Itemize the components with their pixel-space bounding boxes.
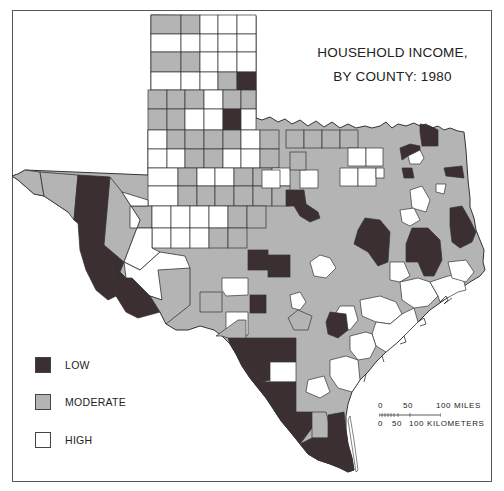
legend-item-high: HIGH <box>35 431 92 449</box>
legend-label-moderate: MODERATE <box>65 396 126 408</box>
texas-county-map <box>0 0 504 491</box>
scale-miles-0: 0 <box>378 401 383 410</box>
legend-label-high: HIGH <box>65 434 92 446</box>
scale-km-50: 50 <box>392 419 402 428</box>
legend-item-low: LOW <box>35 356 90 374</box>
scale-miles-50: 50 <box>403 401 413 410</box>
scale-km-100: 100 KILOMETERS <box>409 419 485 428</box>
scale-bar-ticks <box>379 413 441 417</box>
scale-miles-100: 100 MILES <box>436 401 481 410</box>
panhandle-counties <box>148 15 256 130</box>
scale-km-0: 0 <box>378 419 383 428</box>
legend-item-moderate: MODERATE <box>35 393 126 411</box>
legend-swatch-high <box>35 432 51 448</box>
legend-label-low: LOW <box>65 359 90 371</box>
legend-swatch-low <box>35 357 51 373</box>
legend-swatch-moderate <box>35 394 51 410</box>
